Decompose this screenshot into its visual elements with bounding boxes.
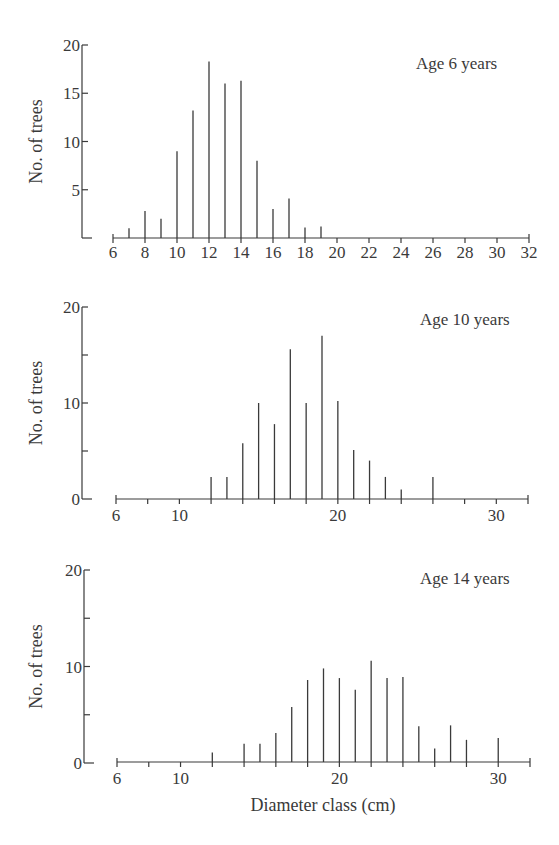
y-tick-label: 20 (63, 298, 80, 317)
y-axis-label: No. of trees (26, 361, 46, 445)
x-tick-label: 30 (488, 506, 505, 525)
y-tick-label: 20 (63, 36, 80, 55)
y-tick-label: 15 (63, 84, 80, 103)
x-tick-label: 22 (361, 243, 378, 262)
x-tick-label: 14 (233, 243, 251, 262)
x-tick-label: 30 (489, 243, 506, 262)
panel-title: Age 14 years (420, 569, 510, 588)
y-tick-label: 20 (65, 561, 82, 580)
chart-panel-1: 5101520No. of trees681012141618202224262… (26, 36, 538, 262)
x-tick-label: 12 (201, 243, 218, 262)
x-tick-label: 10 (169, 243, 186, 262)
diameter-distribution-charts: 5101520No. of trees681012141618202224262… (0, 0, 559, 845)
x-tick-label: 10 (171, 506, 188, 525)
x-tick-label: 6 (112, 506, 121, 525)
y-tick-label: 0 (72, 490, 81, 509)
x-tick-label: 20 (329, 506, 346, 525)
x-tick-label: 28 (457, 243, 474, 262)
x-tick-label: 6 (109, 243, 118, 262)
x-tick-label: 32 (521, 243, 538, 262)
y-tick-label: 0 (74, 754, 83, 773)
x-tick-label: 16 (265, 243, 282, 262)
chart-panel-3: 01020No. of trees6102030Age 14 yearsDiam… (26, 561, 530, 816)
x-axis-label: Diameter class (cm) (251, 795, 396, 816)
y-tick-label: 5 (72, 181, 81, 200)
x-tick-label: 8 (141, 243, 150, 262)
x-tick-label: 6 (113, 769, 122, 788)
x-tick-label: 10 (172, 769, 189, 788)
y-tick-label: 10 (63, 133, 80, 152)
y-tick-label: 10 (63, 394, 80, 413)
x-tick-label: 18 (297, 243, 314, 262)
x-tick-label: 20 (329, 243, 346, 262)
panel-title: Age 6 years (416, 54, 497, 73)
y-axis-label: No. of trees (26, 99, 46, 183)
panel-title: Age 10 years (420, 310, 510, 329)
x-tick-label: 24 (393, 243, 411, 262)
x-tick-label: 20 (331, 769, 348, 788)
chart-panel-2: 01020No. of trees6102030Age 10 years (26, 298, 528, 525)
x-tick-label: 26 (425, 243, 442, 262)
x-tick-label: 30 (490, 769, 507, 788)
y-tick-label: 10 (65, 658, 82, 677)
figure: 5101520No. of trees681012141618202224262… (0, 0, 559, 845)
y-axis-label: No. of trees (26, 624, 46, 708)
